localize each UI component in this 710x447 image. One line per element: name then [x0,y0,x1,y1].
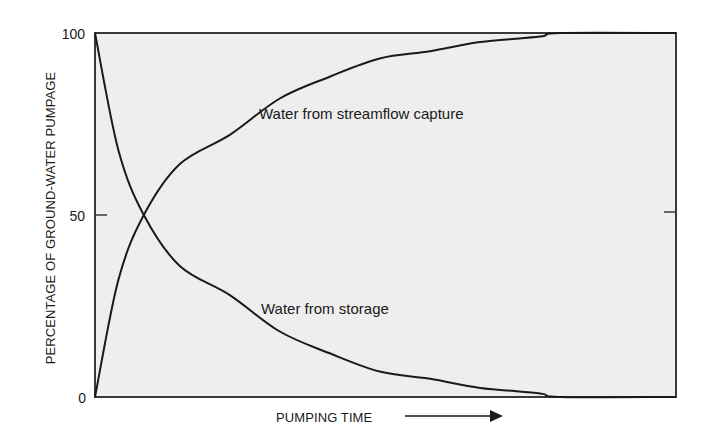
y-tick-label-50: 50 [69,208,85,224]
annotation-storage: Water from storage [261,300,389,317]
right-arrow-icon [405,410,503,422]
plot-area [95,33,676,397]
annotation-streamflow-capture: Water from streamflow capture [259,105,464,122]
pumpage-chart: 100 50 0 PERCENTAGE OF GROUND-WATER PUMP… [0,0,710,447]
y-tick-label-0: 0 [78,390,86,406]
x-axis-title: PUMPING TIME [276,410,373,425]
y-axis-title: PERCENTAGE OF GROUND-WATER PUMPAGE [43,72,58,365]
y-tick-label-100: 100 [62,26,86,42]
